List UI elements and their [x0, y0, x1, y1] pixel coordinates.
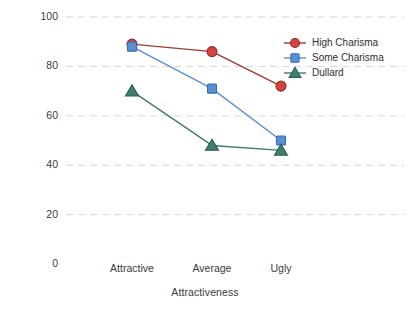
legend-item-high-charisma[interactable]: High Charisma [283, 36, 409, 50]
legend-marker-triangle-icon [283, 66, 307, 80]
x-tick-label-ugly: Ugly [236, 262, 326, 274]
legend-item-some-charisma[interactable]: Some Charisma [283, 51, 409, 65]
legend-label: High Charisma [307, 37, 378, 49]
chart-legend: High CharismaSome CharismaDullard [283, 36, 409, 81]
legend-marker-circle-icon [283, 36, 307, 50]
line-chart-figure: 020406080100 AttractiveAverageUgly Mean … [0, 0, 411, 315]
legend-marker-square-icon [283, 51, 307, 65]
x-tick-label-attractive: Attractive [87, 262, 177, 274]
legend-label: Some Charisma [307, 52, 384, 64]
x-axis-title: Attractiveness [60, 286, 350, 298]
legend-label: Dullard [307, 67, 344, 79]
legend-item-dullard[interactable]: Dullard [283, 66, 409, 80]
